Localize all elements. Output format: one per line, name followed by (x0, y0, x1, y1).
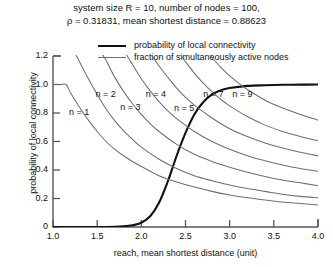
x-axis-title: reach, mean shortest distance (unit) (53, 248, 318, 258)
curve-label-n-=-9: n = 9 (232, 89, 252, 99)
curve-label-n-=-2: n = 2 (95, 89, 115, 99)
x-tick-label-1: 1.5 (91, 231, 104, 241)
y-tick-label-0: 0 (43, 221, 48, 231)
x-tick-label-0: 1.0 (47, 231, 60, 241)
x-tick-label-4: 3.0 (223, 231, 236, 241)
x-tick-label-2: 2.0 (135, 231, 148, 241)
curves-layer (53, 53, 318, 227)
y-axis-title: probability of local connectivity (28, 38, 38, 228)
curve-label-n-=-5: n = 5 (174, 103, 194, 113)
chart-figure: system size R = 10, number of nodes = 10… (0, 0, 333, 267)
x-axis-tick-labels: 1.01.52.02.53.03.54.0 (0, 231, 333, 245)
curve-n-=-9 (208, 53, 318, 120)
series-group (53, 53, 318, 227)
curve-n-=-1 (53, 84, 318, 205)
curve-label-n-=-3: n = 3 (120, 102, 140, 112)
curve-n-=-2 (75, 53, 318, 198)
curve-label-n-=-4: n = 4 (146, 89, 166, 99)
x-tick-label-5: 3.5 (268, 231, 281, 241)
curve-n-=-4 (125, 53, 318, 171)
x-tick-label-6: 4.0 (312, 231, 325, 241)
plot-canvas (0, 0, 333, 267)
x-tick-label-3: 2.5 (179, 231, 192, 241)
curve-label-n-=-1: n = 1 (69, 107, 89, 117)
curve-label-n-=-7: n = 7 (203, 89, 223, 99)
